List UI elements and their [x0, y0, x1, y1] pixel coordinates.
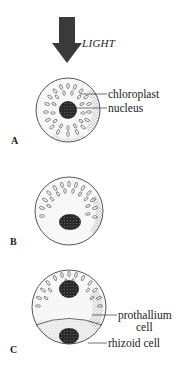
panel-label-c: C: [10, 344, 17, 355]
nucleus-rhizoid: [59, 328, 79, 344]
label-prothallium: prothallium: [118, 309, 172, 321]
label-chloroplast: chloroplast: [108, 88, 159, 100]
nucleus-prothallium: [59, 280, 79, 298]
spore-b: [35, 177, 103, 250]
nucleus-a: [59, 101, 77, 119]
light-label: LIGHT: [82, 37, 115, 49]
label-prothallium-cell: cell: [136, 321, 153, 333]
label-nucleus: nucleus: [108, 102, 143, 114]
panel-label-b: B: [10, 236, 17, 247]
spore-a: [36, 78, 107, 144]
nucleus-b: [59, 214, 81, 230]
label-rhizoid: rhizoid cell: [108, 337, 160, 349]
spore-c: [30, 270, 117, 350]
light-arrow-icon: [52, 17, 82, 63]
panel-label-a: A: [11, 135, 18, 146]
